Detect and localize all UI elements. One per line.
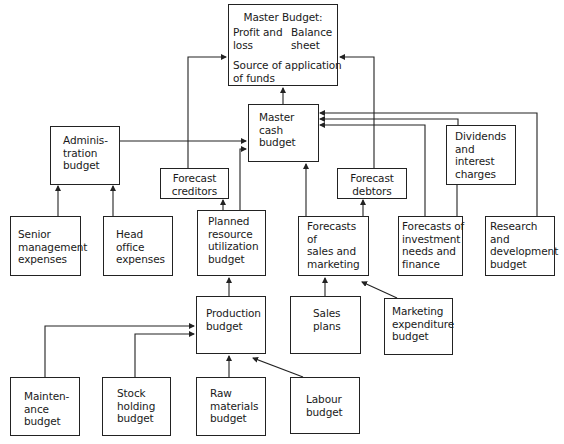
master-budget-title: Master Budget: bbox=[229, 11, 337, 24]
sales-plans-box: Sales plans bbox=[290, 296, 361, 354]
master-budget-box: Master Budget: Profit and loss Balance s… bbox=[228, 4, 338, 86]
forecast-debtors-box: Forecast debtors bbox=[337, 168, 407, 199]
raw-materials-budget-box: Raw materials budget bbox=[196, 377, 266, 436]
dividends-interest-box: Dividends and interest charges bbox=[446, 125, 516, 185]
profit-and-loss-label: Profit and loss bbox=[233, 26, 282, 51]
source-of-funds-label: Source of application of funds bbox=[233, 59, 342, 84]
forecasts-sales-marketing-box: Forecasts of sales and marketing bbox=[298, 216, 369, 276]
forecasts-investment-box: Forecasts of investment needs and financ… bbox=[398, 216, 463, 276]
maintenance-budget-box: Mainten- ance budget bbox=[10, 377, 80, 436]
labour-budget-box: Labour budget bbox=[290, 377, 360, 434]
balance-sheet-label: Balance sheet bbox=[291, 26, 332, 51]
senior-management-box: Senior management expenses bbox=[10, 216, 81, 276]
master-cash-budget-box: Master cash budget bbox=[248, 104, 319, 162]
stock-holding-budget-box: Stock holding budget bbox=[102, 377, 171, 436]
planned-resource-box: Planned resource utilization budget bbox=[197, 210, 266, 276]
production-budget-box: Production budget bbox=[196, 296, 266, 354]
administration-budget-box: Adminis- tration budget bbox=[50, 126, 120, 185]
marketing-expenditure-box: Marketing expenditure budget bbox=[384, 298, 453, 355]
research-development-box: Research and development budget bbox=[485, 216, 555, 276]
forecast-creditors-box: Forecast creditors bbox=[160, 168, 229, 199]
head-office-box: Head office expenses bbox=[103, 216, 173, 276]
